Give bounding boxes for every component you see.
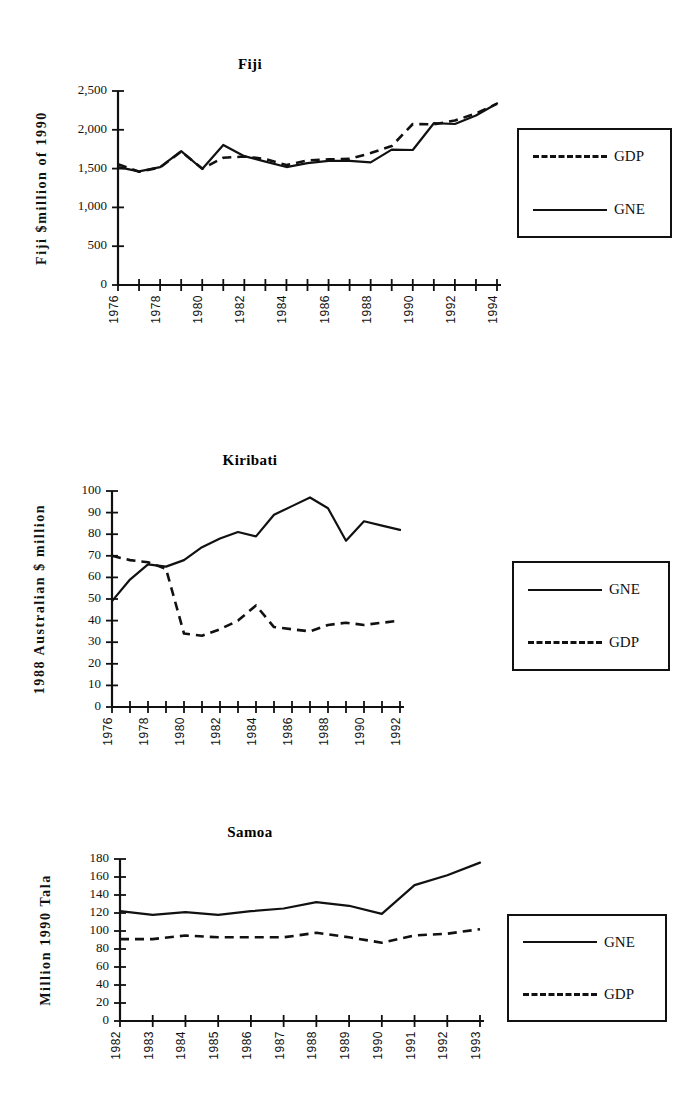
x-tick-label: 1986 xyxy=(240,1031,254,1060)
legend-label-gdp: GDP xyxy=(604,987,634,1002)
y-axis-label: Fiji $million of 1990 xyxy=(34,111,49,265)
x-tick-label: 1982 xyxy=(109,1031,123,1060)
y-tick-label: 0 xyxy=(101,276,108,291)
y-tick-label: 70 xyxy=(88,547,101,562)
x-tick-label: 1990 xyxy=(402,295,416,324)
legend-label-gdp: GDP xyxy=(609,635,639,650)
y-tick-label: 10 xyxy=(88,676,101,691)
legend-swatch-dashed-icon xyxy=(533,155,607,158)
x-tick-label: 1978 xyxy=(137,717,151,746)
y-tick-label: 20 xyxy=(96,994,109,1009)
legend-label-gne: GNE xyxy=(614,202,645,217)
x-tick-label: 1990 xyxy=(371,1031,385,1060)
x-tick-label: 1986 xyxy=(318,295,332,324)
legend-label-gne: GNE xyxy=(609,582,640,597)
x-tick-label: 1987 xyxy=(273,1031,287,1060)
figure-fiji: Fiji 05001,0001,5002,0002,50019761978198… xyxy=(0,0,694,410)
y-tick-label: 180 xyxy=(90,850,110,865)
legend-swatch-solid-icon xyxy=(533,209,607,211)
y-tick-label: 120 xyxy=(90,904,110,919)
y-tick-label: 40 xyxy=(96,976,109,991)
x-tick-label: 1991 xyxy=(404,1031,418,1060)
series-line-gdp xyxy=(118,104,497,172)
x-tick-label: 1984 xyxy=(174,1031,188,1060)
x-tick-label: 1978 xyxy=(149,295,163,324)
y-tick-label: 60 xyxy=(96,958,109,973)
chart-fiji: 05001,0001,5002,0002,5001976197819801982… xyxy=(0,73,520,393)
x-tick-label: 1988 xyxy=(317,717,331,746)
y-tick-label: 20 xyxy=(88,655,101,670)
x-tick-label: 1985 xyxy=(207,1031,221,1060)
y-tick-label: 500 xyxy=(88,237,108,252)
chart-samoa: 0204060801001201401601801982198319841985… xyxy=(0,841,520,1118)
legend-swatch-dashed-icon xyxy=(528,641,602,644)
y-tick-label: 0 xyxy=(95,698,102,713)
y-tick-label: 60 xyxy=(88,568,101,583)
figure-kiribati: Kiribati 0102030405060708090100197619781… xyxy=(0,410,694,810)
legend-item-gne: GNE xyxy=(509,916,665,968)
y-tick-label: 2,000 xyxy=(78,121,107,136)
x-tick-label: 1976 xyxy=(101,717,115,746)
x-tick-label: 1980 xyxy=(191,295,205,324)
y-tick-label: 90 xyxy=(88,504,101,519)
plot-wrap-fiji: 05001,0001,5002,0002,5001976197819801982… xyxy=(0,73,694,393)
chart-title-kiribati: Kiribati xyxy=(0,452,500,469)
y-tick-label: 80 xyxy=(88,525,101,540)
legend-item-gdp: GDP xyxy=(509,968,665,1020)
plot-wrap-samoa: 0204060801001201401601801982198319841985… xyxy=(0,841,694,1118)
y-tick-label: 2,500 xyxy=(78,82,107,97)
y-tick-label: 100 xyxy=(82,482,102,497)
legend-swatch-solid-icon xyxy=(528,589,602,591)
y-tick-label: 160 xyxy=(90,868,110,883)
legend-item-gdp: GDP xyxy=(519,130,670,183)
legend-kiribati: GNE GDP xyxy=(512,561,670,671)
y-tick-label: 40 xyxy=(88,612,101,627)
series-line-gne xyxy=(120,863,480,915)
x-tick-label: 1984 xyxy=(275,295,289,324)
x-tick-label: 1982 xyxy=(209,717,223,746)
series-line-gdp xyxy=(120,929,480,943)
legend-swatch-dashed-icon xyxy=(523,993,597,996)
y-tick-label: 140 xyxy=(90,886,110,901)
x-tick-label: 1980 xyxy=(173,717,187,746)
y-tick-label: 1,000 xyxy=(78,198,107,213)
x-tick-label: 1988 xyxy=(360,295,374,324)
x-tick-label: 1990 xyxy=(353,717,367,746)
x-tick-label: 1992 xyxy=(389,717,403,746)
x-tick-label: 1992 xyxy=(436,1031,450,1060)
x-tick-label: 1992 xyxy=(444,295,458,324)
legend-label-gdp: GDP xyxy=(614,149,644,164)
x-tick-label: 1984 xyxy=(245,717,259,746)
legend-label-gne: GNE xyxy=(604,935,635,950)
series-line-gne xyxy=(112,497,400,601)
x-tick-label: 1988 xyxy=(305,1031,319,1060)
chart-kiribati: 0102030405060708090100197619781980198219… xyxy=(0,469,520,794)
y-tick-label: 100 xyxy=(90,922,110,937)
y-tick-label: 1,500 xyxy=(78,160,107,175)
x-tick-label: 1993 xyxy=(469,1031,483,1060)
x-tick-label: 1982 xyxy=(233,295,247,324)
legend-item-gne: GNE xyxy=(519,183,670,236)
legend-samoa: GNE GDP xyxy=(507,914,667,1022)
y-axis-label: Million 1990 Tala xyxy=(38,874,53,1005)
chart-title-samoa: Samoa xyxy=(0,824,500,841)
plot-wrap-kiribati: 0102030405060708090100197619781980198219… xyxy=(0,469,694,794)
y-axis-label: 1988 Australian $ million xyxy=(32,504,47,695)
series-line-gne xyxy=(118,103,497,171)
legend-fiji: GDP GNE xyxy=(517,128,672,238)
y-tick-label: 30 xyxy=(88,633,101,648)
legend-item-gne: GNE xyxy=(514,563,668,616)
x-tick-label: 1986 xyxy=(281,717,295,746)
y-tick-label: 50 xyxy=(88,590,101,605)
x-tick-label: 1983 xyxy=(142,1031,156,1060)
chart-title-fiji: Fiji xyxy=(0,56,500,73)
series-line-gdp xyxy=(112,556,400,636)
legend-swatch-solid-icon xyxy=(523,941,597,943)
x-tick-label: 1994 xyxy=(486,295,500,324)
x-tick-label: 1976 xyxy=(107,295,121,324)
legend-item-gdp: GDP xyxy=(514,616,668,669)
x-tick-label: 1989 xyxy=(338,1031,352,1060)
y-tick-label: 80 xyxy=(96,940,109,955)
figure-samoa: Samoa 0204060801001201401601801982198319… xyxy=(0,810,694,1118)
y-tick-label: 0 xyxy=(103,1012,110,1027)
